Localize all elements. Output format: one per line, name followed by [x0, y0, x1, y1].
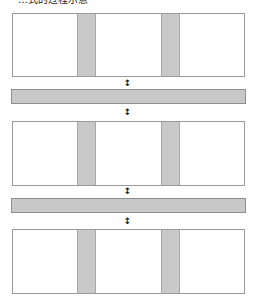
diagram-title: …式的过程示意 — [18, 0, 128, 4]
block-stripe-left — [77, 122, 96, 185]
block-stripe-right — [161, 14, 180, 76]
double-arrow-icon: ↕ — [123, 187, 132, 196]
double-arrow-icon: ↕ — [123, 79, 132, 88]
double-arrow-icon: ↕ — [123, 217, 132, 226]
layer-block-3 — [12, 229, 245, 294]
block-stripe-right — [161, 230, 180, 293]
layer-block-2 — [12, 121, 245, 186]
block-stripe-left — [77, 14, 96, 76]
layer-bar-1 — [11, 89, 246, 104]
layer-block-1 — [12, 13, 245, 77]
block-stripe-left — [77, 230, 96, 293]
block-stripe-right — [161, 122, 180, 185]
layer-bar-2 — [11, 198, 246, 213]
double-arrow-icon: ↕ — [123, 108, 132, 117]
